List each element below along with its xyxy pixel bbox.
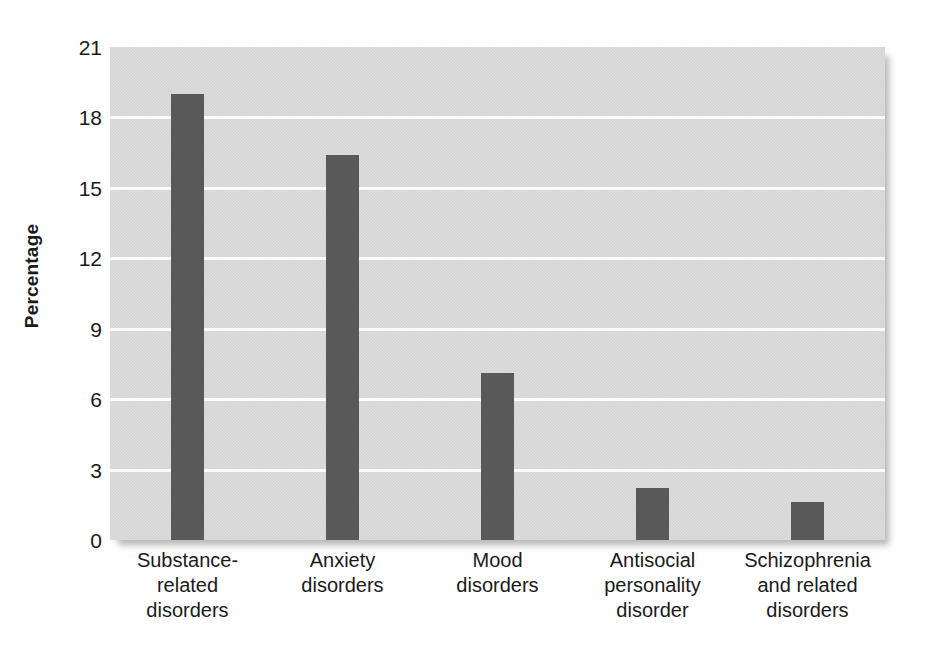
y-axis-tick-label: 12 [62, 248, 102, 269]
x-axis-tick-label-line: Mood [420, 548, 575, 573]
bar [326, 155, 359, 540]
x-axis-tick-label-line: Antisocial [575, 548, 730, 573]
x-axis-tick-label: Mooddisorders [420, 548, 575, 598]
bar [481, 373, 514, 540]
x-axis-tick-label-line: Anxiety [265, 548, 420, 573]
y-axis-tick-label: 15 [62, 177, 102, 198]
x-axis-tick-label-line: Schizophrenia [730, 548, 885, 573]
y-axis-tick-label: 6 [62, 389, 102, 410]
x-axis-tick-label-line: disorder [575, 598, 730, 623]
x-axis-tick-label-group: Substance-relateddisordersAnxietydisorde… [110, 548, 885, 648]
x-axis-tick-label-line: and related [730, 573, 885, 598]
y-axis-tick-label-group: 036912151821 [62, 47, 102, 540]
y-axis-tick-label: 21 [62, 37, 102, 58]
x-axis-tick-label-line: Substance- [110, 548, 265, 573]
x-axis-tick-label-line: disorders [265, 573, 420, 598]
x-axis-tick-label-line: disorders [110, 598, 265, 623]
x-axis-tick-label: Antisocialpersonalitydisorder [575, 548, 730, 623]
bars-group [110, 47, 885, 540]
y-axis-tick-label: 18 [62, 107, 102, 128]
x-axis-tick-label: Anxietydisorders [265, 548, 420, 598]
x-axis-tick-label-line: related [110, 573, 265, 598]
bar [171, 94, 204, 540]
x-axis-tick-label-line: disorders [730, 598, 885, 623]
y-axis-tick-label: 0 [62, 530, 102, 551]
plot-area [110, 47, 885, 540]
y-axis-title: Percentage [21, 196, 43, 356]
bar [791, 502, 824, 540]
x-axis-tick-label-line: disorders [420, 573, 575, 598]
x-axis-tick-label: Substance-relateddisorders [110, 548, 265, 623]
y-axis-tick-label: 9 [62, 318, 102, 339]
x-axis-tick-label: Schizophreniaand relateddisorders [730, 548, 885, 623]
y-axis-tick-label: 3 [62, 459, 102, 480]
bar-chart-figure: Percentage 036912151821 Substance-relate… [0, 0, 945, 655]
bar [636, 488, 669, 540]
x-axis-tick-label-line: personality [575, 573, 730, 598]
